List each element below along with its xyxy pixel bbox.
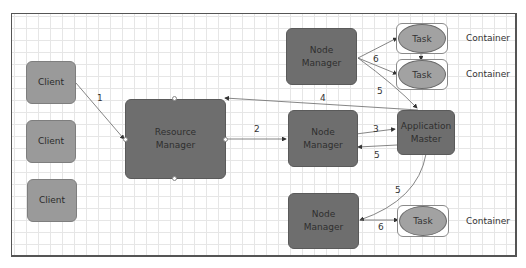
edge-label-6: 6 bbox=[373, 54, 379, 64]
edge-label-5: 5 bbox=[377, 86, 383, 96]
resource-manager-label: Resource Manager bbox=[146, 126, 206, 152]
node-manager-label: Node Manager bbox=[301, 126, 346, 152]
resource-manager-node[interactable]: Resource Manager bbox=[125, 99, 226, 179]
node-manager-mid-node[interactable]: Node Manager bbox=[288, 110, 358, 167]
client-label: Client bbox=[38, 135, 64, 148]
task-label: Task bbox=[413, 216, 432, 226]
connection-handle[interactable] bbox=[123, 137, 128, 142]
client-label: Client bbox=[39, 194, 65, 207]
client-label: Client bbox=[38, 76, 64, 89]
client-node[interactable]: Client bbox=[26, 120, 76, 163]
task-node[interactable]: Task bbox=[398, 60, 446, 89]
container-label: Container bbox=[466, 216, 510, 226]
client-node[interactable]: Client bbox=[27, 179, 77, 222]
node-manager-label: Node Manager bbox=[299, 44, 344, 70]
edge-label-2: 2 bbox=[254, 124, 260, 134]
edge-label-4: 4 bbox=[320, 93, 326, 103]
client-node[interactable]: Client bbox=[26, 61, 76, 104]
container-label: Container bbox=[466, 69, 510, 79]
edge-label-5: 5 bbox=[395, 185, 401, 195]
task-node[interactable]: Task bbox=[399, 206, 447, 236]
connection-handle[interactable] bbox=[223, 137, 228, 142]
task-label: Task bbox=[412, 34, 431, 44]
edge-label-5: 5 bbox=[374, 150, 380, 160]
task-label: Task bbox=[412, 70, 431, 80]
node-manager-top-node[interactable]: Node Manager bbox=[286, 28, 357, 85]
node-manager-label: Node Manager bbox=[301, 208, 346, 234]
task-node[interactable]: Task bbox=[398, 24, 446, 53]
container-label: Container bbox=[466, 33, 510, 43]
edge-label-3: 3 bbox=[373, 124, 379, 134]
connection-handle[interactable] bbox=[172, 96, 177, 101]
edge-label-6: 6 bbox=[378, 222, 384, 232]
application-master-node[interactable]: Application Master bbox=[397, 110, 455, 155]
connection-handle[interactable] bbox=[172, 176, 177, 181]
application-master-label: Application Master bbox=[399, 120, 454, 146]
node-manager-bottom-node[interactable]: Node Manager bbox=[288, 193, 359, 249]
edge-label-1: 1 bbox=[97, 93, 103, 103]
